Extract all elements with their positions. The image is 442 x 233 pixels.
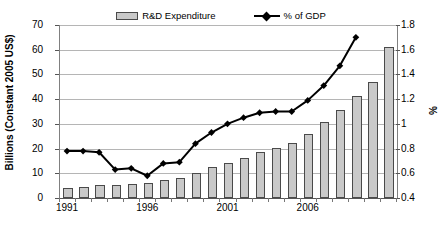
y-axis-right-tick [396,74,400,75]
bar [95,185,104,198]
legend-label-percent-of-gdp: % of GDP [284,11,326,21]
x-axis-tick-label: 2006 [297,203,319,213]
x-axis-tick-label: 2001 [216,203,238,213]
y-axis-left-tick [55,149,59,150]
y-axis-left-tick [55,74,59,75]
y-axis-right-tick-label: 0.6 [401,168,427,178]
y-axis-left-tick-label: 60 [13,45,43,55]
bar [63,188,72,198]
x-axis-tick [203,198,204,202]
bar [240,158,249,198]
y-axis-right-tick [396,173,400,174]
x-axis-tick [332,198,333,202]
bar [336,110,345,198]
legend-entry-percent-of-gdp: % of GDP [254,11,326,21]
bar [112,185,121,198]
bar [192,173,201,198]
bar [352,96,361,198]
y-axis-right-tick [396,99,400,100]
line-diamond-icon [254,11,280,21]
y-axis-right-title-text: % [428,106,439,115]
x-axis-tick [380,198,381,202]
y-axis-right-tick-label: 0.8 [401,144,427,154]
bar [304,134,313,199]
bar [384,47,393,198]
bar [256,152,265,198]
y-axis-right-tick-label: 1.8 [401,20,427,30]
y-axis-left-tick [55,50,59,51]
y-axis-right-tick [396,50,400,51]
bar [320,122,329,198]
gridline [60,25,397,26]
x-axis-tick [252,198,253,202]
chart-legend: R&D Expenditure % of GDP [0,6,442,26]
bar [224,163,233,198]
y-axis-right-tick [396,25,400,26]
x-axis-tick [348,198,349,202]
y-axis-left-tick [55,99,59,100]
y-axis-left-tick [55,173,59,174]
y-axis-right-tick-label: 1 [401,119,427,129]
y-axis-left-tick-label: 70 [13,20,43,30]
x-axis-tick [171,198,172,202]
gridline [60,149,397,150]
bar [128,184,137,198]
x-axis-tick-label: 1991 [56,203,78,213]
x-axis-tick [396,198,397,202]
y-axis-left-tick [55,124,59,125]
gridline [60,50,397,51]
legend-entry-rd-expenditure: R&D Expenditure [116,11,215,21]
x-axis-tick [187,198,188,202]
gridline [60,74,397,75]
x-axis-line [60,198,397,199]
gridline [60,124,397,125]
y-axis-right-tick-label: 0.4 [401,193,427,203]
x-axis-tick [364,198,365,202]
x-axis-tick [123,198,124,202]
bar [160,180,169,198]
y-axis-right-tick [396,149,400,150]
x-axis-tick-label: 1996 [136,203,158,213]
y-axis-left-tick-label: 0 [13,193,43,203]
bar [272,148,281,198]
x-axis-tick [284,198,285,202]
bar [288,143,297,198]
bar [176,178,185,198]
plot-area [59,25,398,198]
bar [368,82,377,198]
bar-swatch-icon [116,12,138,20]
bar [79,187,88,198]
y-axis-right-tick-label: 1.6 [401,45,427,55]
x-axis-tick [91,198,92,202]
y-axis-left-tick [55,25,59,26]
bar [144,183,153,198]
y-axis-right-tick [396,124,400,125]
legend-label-rd-expenditure: R&D Expenditure [142,11,215,21]
y-axis-left-tick-label: 20 [13,144,43,154]
y-axis-right-tick-label: 1.2 [401,94,427,104]
bar [208,167,217,198]
gridline [60,99,397,100]
y-axis-left-tick-label: 10 [13,168,43,178]
y-axis-left-tick-label: 50 [13,69,43,79]
chart-container: R&D Expenditure % of GDP Billions (Const… [0,0,442,233]
y-axis-left-tick-label: 40 [13,94,43,104]
x-axis-tick [107,198,108,202]
y-axis-right-tick-label: 1.4 [401,69,427,79]
x-axis-tick [268,198,269,202]
y-axis-left-tick-label: 30 [13,119,43,129]
